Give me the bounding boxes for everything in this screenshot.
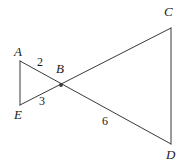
segments-group <box>20 28 171 144</box>
point-markers-group <box>59 83 63 87</box>
geometry-figure: ABCDE 236 <box>0 0 185 166</box>
point-label-a: A <box>14 45 22 58</box>
geometry-canvas <box>0 0 185 166</box>
point-label-d: D <box>166 148 175 161</box>
point-label-e: E <box>14 108 22 121</box>
point-label-c: C <box>164 5 173 18</box>
angle-6-label: 6 <box>102 115 108 127</box>
point-marker-b <box>59 83 63 87</box>
point-label-b: B <box>56 62 64 75</box>
angle-3-label: 3 <box>39 95 45 107</box>
angle-2-label: 2 <box>37 56 43 68</box>
